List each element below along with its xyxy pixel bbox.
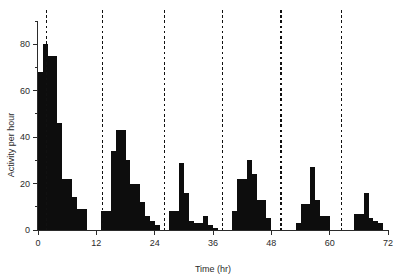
x-tick-label: 60	[325, 238, 335, 248]
histogram-bar	[126, 160, 131, 230]
histogram-bar	[150, 221, 155, 230]
x-tick-label: 12	[91, 238, 101, 248]
x-axis-ticks: 0122436486072	[35, 230, 393, 248]
y-axis-title: Activity per hour	[6, 113, 16, 178]
histogram-bar	[257, 200, 262, 230]
histogram-bar	[373, 221, 378, 230]
histogram-bar	[305, 204, 310, 230]
histogram-bar	[208, 225, 213, 230]
histogram-bar	[359, 214, 364, 230]
histogram-bar	[121, 130, 126, 230]
y-axis-ticks: 020406080	[20, 21, 38, 235]
histogram-bar	[198, 223, 203, 230]
histogram-bar	[174, 211, 179, 230]
histogram-bar	[310, 167, 315, 230]
y-tick-label: 40	[20, 132, 30, 142]
histogram-bar	[179, 163, 184, 230]
histogram-bar	[301, 204, 306, 230]
histogram-bar	[169, 211, 174, 230]
histogram-bar	[116, 130, 121, 230]
histogram-bar	[106, 211, 111, 230]
histogram-bar	[111, 151, 116, 230]
x-axis-title: Time (hr)	[195, 264, 231, 274]
histogram-bar	[43, 44, 48, 230]
y-tick-label: 60	[20, 86, 30, 96]
y-tick-label: 0	[25, 225, 30, 235]
histogram-bar	[213, 228, 218, 230]
histogram-bar	[67, 179, 72, 230]
histogram-bar	[252, 174, 257, 230]
histogram-bar	[155, 225, 160, 230]
histogram-bar	[247, 160, 252, 230]
histogram-bar	[364, 193, 369, 230]
histogram-bar	[130, 184, 135, 230]
histogram-bar	[242, 179, 247, 230]
histogram-bar	[57, 123, 62, 230]
histogram-bar	[203, 216, 208, 230]
axes-group	[38, 21, 389, 231]
histogram-bar	[320, 216, 325, 230]
histogram-bar	[77, 209, 82, 230]
bar-series	[38, 44, 383, 230]
y-tick-label: 80	[20, 39, 30, 49]
histogram-bar	[266, 218, 271, 230]
histogram-bar	[135, 184, 140, 230]
histogram-bar	[189, 221, 194, 230]
histogram-bar	[48, 56, 53, 230]
x-tick-label: 48	[266, 238, 276, 248]
histogram-bar	[325, 216, 330, 230]
histogram-bar	[38, 72, 43, 230]
x-tick-label: 24	[150, 238, 160, 248]
histogram-bar	[262, 200, 267, 230]
histogram-bar	[72, 197, 77, 230]
histogram-bar	[232, 211, 237, 230]
histogram-bar	[378, 223, 383, 230]
histogram-bar	[296, 223, 301, 230]
x-tick-label: 72	[383, 238, 393, 248]
histogram-bar	[184, 193, 189, 230]
histogram-bar	[315, 200, 320, 230]
x-tick-label: 36	[208, 238, 218, 248]
chart-figure: 0122436486072 020406080 Activity per hou…	[0, 0, 405, 275]
histogram-bar	[194, 223, 199, 230]
x-tick-label: 0	[35, 238, 40, 248]
histogram-bar	[140, 202, 145, 230]
y-tick-label: 20	[20, 179, 30, 189]
histogram-bar	[354, 214, 359, 230]
histogram-bar	[82, 209, 87, 230]
histogram-bar	[237, 179, 242, 230]
marker-lines-group	[46, 10, 342, 230]
histogram-bar	[369, 218, 374, 230]
histogram-bar	[62, 179, 67, 230]
histogram-bar	[53, 56, 58, 230]
histogram-bar	[145, 216, 150, 230]
activity-histogram-plot: 0122436486072 020406080 Activity per hou…	[0, 0, 405, 275]
